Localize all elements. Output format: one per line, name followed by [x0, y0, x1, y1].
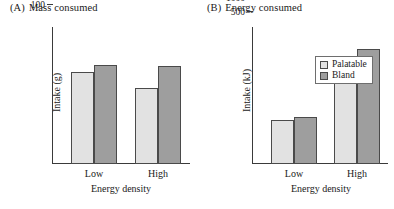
x-tick-label: High — [148, 168, 168, 179]
y-tick-label: 1000 — [226, 0, 245, 3]
bar-low-bland — [294, 117, 317, 164]
bar-high-palatable — [135, 88, 158, 164]
panel-a-title: (A)Mass consumed — [10, 2, 98, 13]
legend-item-palatable: Palatable — [320, 59, 367, 70]
bar-low-palatable — [271, 120, 294, 164]
legend-item-bland: Bland — [320, 70, 367, 81]
bar-group — [71, 27, 117, 164]
bar-group — [334, 27, 380, 164]
panel-b-x-axis-label: Energy density — [252, 183, 390, 194]
legend-label-bland: Bland — [332, 70, 355, 81]
panel-a-bars — [53, 27, 190, 164]
figure: (A)Mass consumed Intake (g) 100200300400… — [0, 0, 394, 209]
panel-b-bars — [253, 27, 390, 164]
panel-a-tag: (A) — [10, 2, 25, 13]
legend-label-palatable: Palatable — [332, 59, 367, 70]
panel-a-plot: Intake (g) 100200300400500600 LowHigh En… — [52, 27, 174, 164]
panel-a: (A)Mass consumed Intake (g) 100200300400… — [0, 0, 197, 209]
bar-high-palatable — [334, 79, 357, 164]
panel-b-y-axis-label: Intake (kJ) — [241, 51, 252, 131]
bar-high-bland — [158, 66, 181, 164]
panel-a-x-axis-label: Energy density — [52, 183, 190, 194]
panel-b-tag: (B) — [207, 2, 221, 13]
bar-group — [135, 27, 181, 164]
y-tick-label: 100 — [31, 0, 45, 10]
bar-low-bland — [94, 65, 117, 164]
legend-swatch-bland-icon — [320, 72, 328, 80]
panel-b: (B)Energy consumed Intake (kJ) 500100015… — [197, 0, 394, 209]
y-tick — [47, 4, 53, 5]
x-tick-label: Low — [85, 168, 103, 179]
y-tick-label: 500 — [231, 7, 245, 17]
bar-low-palatable — [71, 72, 94, 164]
legend-swatch-palatable-icon — [320, 61, 328, 69]
x-tick-label: High — [347, 168, 367, 179]
panel-b-plot: Intake (kJ) 5001000150020002500300035004… — [252, 27, 372, 164]
x-tick-label: Low — [285, 168, 303, 179]
bar-group — [271, 27, 317, 164]
legend: Palatable Bland — [315, 56, 373, 84]
panel-b-title: (B)Energy consumed — [207, 2, 302, 13]
y-tick — [247, 11, 253, 12]
